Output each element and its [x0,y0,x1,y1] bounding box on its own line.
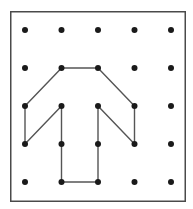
peg-r4c3[interactable] [95,141,101,147]
geoboard-canvas [0,0,193,209]
geoboard-figure [0,0,193,209]
peg-r3c1[interactable] [22,103,28,109]
peg-r2c2[interactable] [59,65,65,71]
peg-r5c5[interactable] [168,179,174,185]
peg-r3c5[interactable] [168,103,174,109]
peg-r1c3[interactable] [95,27,101,33]
peg-r2c5[interactable] [168,65,174,71]
peg-r4c5[interactable] [168,141,174,147]
peg-r1c2[interactable] [59,27,65,33]
peg-r4c2[interactable] [59,141,65,147]
peg-r3c2[interactable] [59,103,65,109]
peg-r2c3[interactable] [95,65,101,71]
peg-r4c4[interactable] [132,141,138,147]
peg-r5c3[interactable] [95,179,101,185]
peg-r2c1[interactable] [22,65,28,71]
peg-r4c1[interactable] [22,141,28,147]
peg-r3c4[interactable] [132,103,138,109]
peg-r1c1[interactable] [22,27,28,33]
peg-r2c4[interactable] [132,65,138,71]
peg-r5c1[interactable] [22,179,28,185]
peg-r1c5[interactable] [168,27,174,33]
peg-r3c3[interactable] [95,103,101,109]
peg-r5c2[interactable] [59,179,65,185]
peg-r5c4[interactable] [132,179,138,185]
peg-r1c4[interactable] [132,27,138,33]
